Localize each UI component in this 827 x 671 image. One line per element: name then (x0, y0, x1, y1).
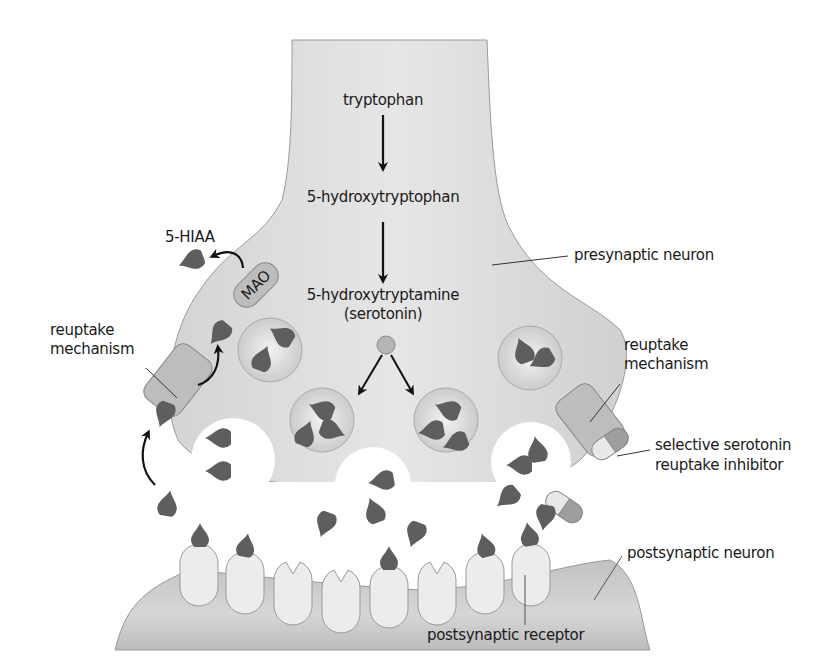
label-tryptophan: tryptophan (343, 91, 423, 109)
arrow-curved-icon (143, 433, 155, 485)
receptor-empty (274, 562, 312, 625)
vesicle (498, 326, 562, 390)
vesicle (290, 388, 354, 452)
label-reuptake-right-2: mechanism (624, 355, 708, 373)
label-5-hiaa: 5-HIAA (165, 228, 216, 246)
metabolite-molecule (175, 247, 208, 275)
label-presynaptic-neuron: presynaptic neuron (574, 246, 714, 264)
label-postsynaptic-neuron: postsynaptic neuron (627, 544, 774, 562)
label-reuptake-left-2: mechanism (50, 340, 134, 358)
label-reuptake-right-1: reuptake (624, 336, 688, 354)
label-5-hydroxytryptophan: 5-hydroxytryptophan (307, 188, 460, 206)
synapse-diagram: tryptophan 5-hydroxytryptophan 5-hydroxy… (0, 0, 827, 671)
receptor-bound (226, 532, 264, 614)
label-serotonin: (serotonin) (344, 305, 423, 323)
receptor-bound (512, 521, 550, 606)
label-ssri-2: reuptake inhibitor (655, 456, 784, 474)
serotonin-molecule (377, 336, 395, 354)
receptor-bound (180, 523, 218, 606)
presynaptic-neuron (169, 40, 630, 523)
label-ssri-1: selective serotonin (655, 436, 791, 454)
receptor-empty (418, 562, 456, 625)
label-postsynaptic-receptor: postsynaptic receptor (427, 626, 585, 644)
label-5-hydroxytryptamine: 5-hydroxytryptamine (307, 286, 460, 304)
receptor-bound (466, 531, 504, 614)
vesicle (238, 318, 302, 382)
receptor-empty (322, 570, 360, 633)
label-reuptake-left-1: reuptake (50, 321, 114, 339)
leader-line (617, 450, 650, 456)
receptor-bound (370, 546, 408, 628)
